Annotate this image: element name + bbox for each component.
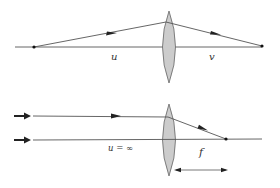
- top-refracted-ray-arrow-icon: [210, 31, 221, 35]
- bottom-upper-ray-arrow-icon: [111, 114, 121, 119]
- dimension-arrow-right-icon: [221, 168, 228, 172]
- dimension-arrow-left-icon: [174, 168, 181, 172]
- focal-point: [224, 137, 227, 140]
- bottom-convex-lens: [163, 104, 176, 176]
- top-convex-lens: [163, 11, 176, 83]
- bottom-refracted-ray-arrow-icon: [198, 125, 209, 131]
- top-image-point: [260, 44, 263, 47]
- object-distance-label-u: u: [111, 51, 117, 62]
- bottom-parallel-ray-upper: [33, 116, 168, 117]
- bottom-diagram: u = ∞ f: [14, 104, 262, 176]
- top-incident-ray: [34, 22, 166, 47]
- top-object-point: [32, 45, 35, 48]
- incoming-arrow-upper-icon: [14, 113, 31, 120]
- focal-length-label-f: f: [198, 146, 205, 159]
- lens-diagram: u v u = ∞ f: [0, 0, 280, 188]
- top-diagram: u v: [15, 11, 264, 83]
- object-distance-infinity-label: u = ∞: [108, 143, 133, 153]
- bottom-optical-axis: [33, 139, 262, 140]
- incoming-arrow-axis-icon: [14, 137, 31, 144]
- bottom-refracted-ray: [168, 117, 226, 139]
- image-distance-label-v: v: [209, 51, 215, 62]
